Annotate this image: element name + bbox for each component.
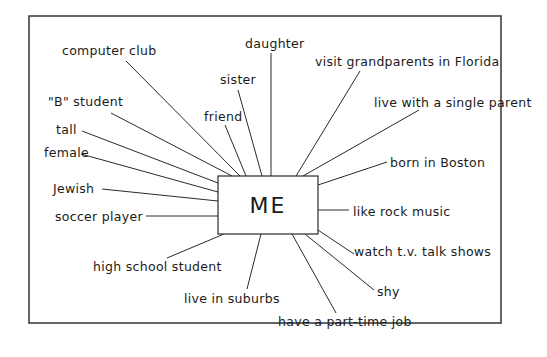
trait-label-tall: tall <box>56 122 77 137</box>
connector-visit-grandparents-florida <box>296 71 360 176</box>
connector-sister <box>238 90 262 176</box>
connector-high-school-student <box>167 234 224 258</box>
connector-female <box>81 154 218 192</box>
connector-watch-tv-talk-shows <box>318 230 354 254</box>
trait-label-visit-grandparents-florida: visit grandparents in Florida <box>315 54 499 69</box>
connector-live-in-suburbs <box>247 234 261 289</box>
connector-friend <box>225 125 246 176</box>
connector-jewish <box>102 189 218 201</box>
trait-label-like-rock-music: like rock music <box>353 204 450 219</box>
trait-label-b-student: "B" student <box>48 94 123 109</box>
trait-label-shy: shy <box>377 284 400 299</box>
trait-label-have-part-time-job: have a part-time job <box>278 314 412 329</box>
trait-label-high-school-student: high school student <box>93 259 222 274</box>
connector-tall <box>82 131 218 183</box>
trait-label-soccer-player: soccer player <box>55 209 143 224</box>
trait-label-sister: sister <box>220 72 257 87</box>
trait-label-daughter: daughter <box>245 36 305 51</box>
identity-web-diagram: ME computer clubdaughtersisterfriend"B" … <box>0 0 547 357</box>
trait-label-watch-tv-talk-shows: watch t.v. talk shows <box>354 244 491 259</box>
trait-label-computer-club: computer club <box>62 43 156 58</box>
center-label: ME <box>250 193 287 218</box>
connector-born-in-boston <box>318 162 387 185</box>
connector-have-part-time-job <box>292 234 336 313</box>
trait-label-born-in-boston: born in Boston <box>390 155 485 170</box>
trait-label-live-with-single-parent: live with a single parent <box>374 95 532 110</box>
connector-shy <box>305 234 374 290</box>
trait-label-female: female <box>44 145 89 160</box>
trait-label-jewish: Jewish <box>52 181 94 196</box>
trait-label-live-in-suburbs: live in suburbs <box>184 291 280 306</box>
trait-label-friend: friend <box>204 109 242 124</box>
